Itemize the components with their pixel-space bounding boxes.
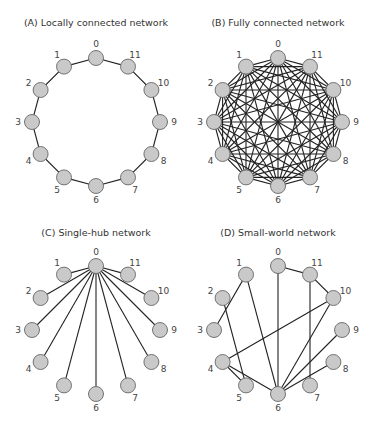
node-circle [335, 323, 350, 338]
node-10: 10 [144, 78, 170, 98]
node-label: 9 [171, 117, 177, 127]
node-label: 9 [353, 325, 359, 335]
node-label: 3 [197, 325, 203, 335]
panel-title: (B) Fully connected network [211, 17, 345, 28]
node-3: 3 [15, 323, 39, 338]
node-label: 8 [343, 156, 349, 166]
node-label: 7 [132, 185, 138, 195]
node-circle [25, 115, 40, 130]
node-9: 9 [335, 323, 360, 338]
node-2: 2 [208, 78, 230, 98]
node-11: 11 [303, 50, 323, 75]
node-label: 0 [93, 247, 99, 257]
node-label: 1 [236, 258, 242, 268]
node-5: 5 [54, 378, 71, 403]
panel-b: (B) Fully connected network0123456789101… [197, 17, 359, 205]
node-circle [271, 387, 286, 402]
node-label: 2 [26, 78, 32, 88]
panel-title: (A) Locally connected network [24, 17, 169, 28]
node-label: 0 [93, 39, 99, 49]
node-label: 8 [161, 364, 167, 374]
node-circle [57, 59, 72, 74]
node-7: 7 [303, 378, 320, 403]
node-3: 3 [197, 115, 221, 130]
node-circle [33, 147, 48, 162]
node-circle [239, 170, 254, 185]
network-figure: (A) Locally connected network01234567891… [0, 0, 368, 433]
node-9: 9 [153, 323, 178, 338]
node-circle [89, 51, 104, 66]
panel-title: (C) Single-hub network [41, 227, 151, 238]
node-label: 3 [15, 325, 21, 335]
node-11: 11 [303, 258, 323, 283]
node-11: 11 [121, 258, 141, 283]
node-label: 6 [275, 403, 281, 413]
node-9: 9 [335, 115, 360, 130]
panel-c: (C) Single-hub network01234567891011 [15, 227, 177, 413]
node-label: 7 [314, 393, 320, 403]
node-circle [239, 267, 254, 282]
node-label: 6 [93, 403, 99, 413]
node-circle [326, 83, 341, 98]
edge-2-5 [223, 298, 246, 385]
node-2: 2 [26, 286, 48, 306]
node-label: 8 [161, 156, 167, 166]
node-4: 4 [208, 147, 230, 167]
node-circle [215, 355, 230, 370]
node-0: 0 [271, 39, 286, 66]
node-label: 11 [311, 258, 322, 268]
node-circle [33, 291, 48, 306]
node-circle [326, 147, 341, 162]
node-circle [326, 355, 341, 370]
node-6: 6 [89, 179, 104, 206]
node-label: 11 [129, 50, 140, 60]
node-circle [239, 378, 254, 393]
node-circle [326, 291, 341, 306]
node-6: 6 [89, 387, 104, 414]
edge-1-6 [246, 275, 278, 394]
node-3: 3 [15, 115, 39, 130]
node-circle [215, 83, 230, 98]
node-circle [121, 59, 136, 74]
node-circle [25, 323, 40, 338]
node-label: 4 [208, 156, 214, 166]
node-label: 9 [353, 117, 359, 127]
node-label: 10 [158, 286, 170, 296]
node-circle [57, 267, 72, 282]
node-circle [239, 59, 254, 74]
node-circle [121, 170, 136, 185]
node-label: 7 [132, 393, 138, 403]
node-circle [303, 378, 318, 393]
node-4: 4 [26, 147, 48, 167]
edge-0-7 [96, 266, 128, 385]
node-5: 5 [54, 170, 71, 195]
node-3: 3 [197, 323, 221, 338]
node-label: 9 [171, 325, 177, 335]
node-circle [33, 83, 48, 98]
node-circle [121, 267, 136, 282]
node-8: 8 [144, 147, 167, 167]
node-label: 11 [129, 258, 140, 268]
node-0: 0 [271, 247, 286, 274]
node-1: 1 [236, 50, 253, 75]
node-5: 5 [236, 378, 253, 403]
node-circle [271, 51, 286, 66]
node-circle [215, 147, 230, 162]
node-8: 8 [144, 355, 167, 375]
panel-title: (D) Small-world network [220, 227, 336, 238]
node-circle [153, 115, 168, 130]
node-label: 4 [208, 364, 214, 374]
node-label: 1 [236, 50, 242, 60]
node-circle [335, 115, 350, 130]
panel-a: (A) Locally connected network01234567891… [15, 17, 177, 205]
node-9: 9 [153, 115, 178, 130]
node-label: 0 [275, 247, 281, 257]
node-2: 2 [26, 78, 48, 98]
edges [32, 266, 160, 394]
node-label: 5 [236, 393, 242, 403]
node-0: 0 [89, 247, 104, 274]
node-7: 7 [303, 170, 320, 195]
node-label: 8 [343, 364, 349, 374]
node-circle [271, 179, 286, 194]
node-label: 0 [275, 39, 281, 49]
